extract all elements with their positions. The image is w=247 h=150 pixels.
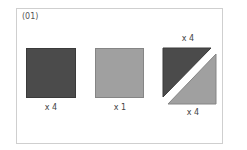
dark-square-count: x 4 <box>26 103 76 112</box>
split-square-top-count: x 4 <box>163 34 213 43</box>
split-half-square <box>162 47 218 105</box>
dark-square <box>26 48 76 98</box>
light-square-count: x 1 <box>95 103 145 112</box>
light-square <box>95 48 144 98</box>
split-square-bottom-count: x 4 <box>168 108 218 117</box>
figure-title: (01) <box>22 12 38 21</box>
